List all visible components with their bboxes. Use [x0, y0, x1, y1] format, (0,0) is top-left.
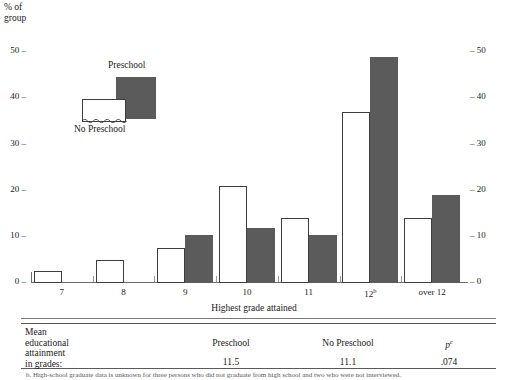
- table-value-preschool: 11.5: [176, 357, 286, 367]
- bar-preschool-grade-12ᵇ: [370, 57, 398, 283]
- bar-no-preschool-grade-8: [96, 260, 124, 283]
- row-label-line-0: Mean: [25, 327, 165, 338]
- legend-squiggle-icon: [82, 118, 128, 124]
- y-axis-title: % of group: [4, 2, 54, 24]
- bar-no-preschool-grade-11: [281, 218, 309, 283]
- y-tick-left-30: 30 –: [0, 138, 26, 148]
- bar-preschool-grade-over 12: [432, 195, 460, 283]
- y-tick-right-10: – 10: [470, 230, 504, 240]
- x-tick-mark: [154, 276, 155, 282]
- bar-no-preschool-grade-9: [157, 248, 185, 283]
- table-header-no-preschool: No Preschool: [293, 338, 403, 348]
- summary-table: Mean educational attainment in grades: P…: [21, 318, 496, 369]
- row-label-line-1: educational: [25, 338, 165, 349]
- x-tick-label-7: 7: [32, 287, 92, 297]
- y-tick-right-50: – 50: [470, 45, 504, 55]
- y-axis-title-line2: group: [4, 13, 54, 24]
- x-tick-mark: [93, 276, 94, 282]
- y-tick-left-20: 20 –: [0, 184, 26, 194]
- bar-preschool-grade-9: [185, 235, 213, 283]
- table-header-p-value: pc: [409, 338, 489, 350]
- figure-footnote: b. High-school graduate data is unknown …: [26, 371, 496, 379]
- y-tick-right-20: – 20: [470, 184, 504, 194]
- bar-no-preschool-grade-12ᵇ: [342, 112, 370, 283]
- y-tick-right-30: – 30: [470, 138, 504, 148]
- x-tick-mark: [401, 276, 402, 282]
- row-label-line-2: attainment: [25, 348, 165, 359]
- bar-preschool-grade-10: [247, 228, 275, 283]
- x-tick-label-8: 8: [94, 287, 154, 297]
- table-header-preschool: Preschool: [176, 338, 286, 348]
- figure-page: % of group Preschool No Preschool Highes…: [0, 0, 508, 380]
- y-tick-left-50: 50 –: [0, 45, 26, 55]
- bar-no-preschool-grade-over 12: [404, 218, 432, 283]
- legend-label-preschool: Preschool: [108, 60, 145, 70]
- x-tick-mark: [340, 276, 341, 282]
- y-axis-title-line1: % of: [4, 2, 54, 13]
- x-tick-label-9: 9: [155, 287, 215, 297]
- x-tick-label-12ᵇ: 12b: [340, 287, 400, 299]
- bar-preschool-grade-11: [309, 235, 337, 283]
- x-tick-label-over 12: over 12: [402, 287, 462, 297]
- row-label-line-3: in grades:: [25, 359, 165, 370]
- bar-no-preschool-grade-7: [34, 271, 62, 283]
- bar-no-preschool-grade-10: [219, 186, 247, 283]
- chart-legend: Preschool No Preschool: [78, 58, 228, 138]
- legend-label-no-preschool: No Preschool: [74, 124, 125, 134]
- y-tick-left-40: 40 –: [0, 91, 26, 101]
- x-tick-mark: [216, 276, 217, 282]
- x-tick-mark: [278, 276, 279, 282]
- x-axis-title: Highest grade attained: [0, 303, 508, 313]
- table-value-p-value: .074: [409, 357, 489, 367]
- x-tick-label-10: 10: [217, 287, 277, 297]
- y-tick-right-40: – 40: [470, 91, 504, 101]
- y-tick-right-0: – 0: [470, 276, 504, 286]
- table-body: Mean educational attainment in grades: P…: [21, 324, 496, 368]
- y-tick-left-0: 0 –: [0, 276, 26, 286]
- x-tick-label-11: 11: [279, 287, 339, 297]
- table-value-no-preschool: 11.1: [293, 357, 403, 367]
- y-axis-origin-stub: [31, 272, 32, 283]
- table-row-label: Mean educational attainment in grades:: [25, 327, 165, 369]
- y-tick-left-10: 10 –: [0, 230, 26, 240]
